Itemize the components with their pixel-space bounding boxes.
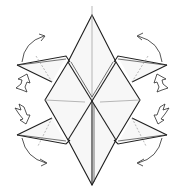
push-arrow-right-upper <box>154 74 168 92</box>
swing-arrow-top-right <box>137 33 162 62</box>
swing-arrow-bottom-left <box>22 138 47 166</box>
swing-arrow-top-left <box>22 34 45 62</box>
push-arrow-left-lower <box>15 104 30 124</box>
swing-arrow-bottom-right <box>137 138 162 166</box>
origami-diagram <box>0 0 184 188</box>
push-arrow-left-upper <box>16 74 30 92</box>
push-arrow-right-lower <box>154 104 169 124</box>
